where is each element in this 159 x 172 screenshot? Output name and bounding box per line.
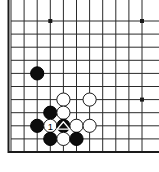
- star-point: [48, 19, 52, 23]
- stone-white[interactable]: [57, 132, 70, 145]
- stone-white[interactable]: [57, 93, 70, 106]
- star-point: [140, 98, 144, 102]
- stone-disc: [44, 132, 57, 145]
- stone-white[interactable]: [83, 93, 96, 106]
- stone-disc: [31, 119, 44, 132]
- stone-disc: [57, 106, 70, 119]
- stone-disc: [70, 132, 83, 145]
- stone-disc: [83, 119, 96, 132]
- stone-white[interactable]: 1: [44, 119, 57, 132]
- stone-black[interactable]: [31, 67, 44, 80]
- stone-disc: [57, 132, 70, 145]
- stone-disc: [83, 93, 96, 106]
- star-point: [140, 19, 144, 23]
- goban-svg[interactable]: 1: [0, 0, 159, 172]
- stone-disc: [70, 119, 83, 132]
- stone-white[interactable]: [83, 119, 96, 132]
- stone-white[interactable]: [57, 106, 70, 119]
- stone-black[interactable]: [70, 132, 83, 145]
- stone-white[interactable]: [70, 119, 83, 132]
- stone-disc: [31, 67, 44, 80]
- stone-black[interactable]: [44, 132, 57, 145]
- stone-disc: [44, 106, 57, 119]
- stone-black[interactable]: [57, 119, 70, 132]
- stone-disc: [57, 93, 70, 106]
- board-edges: [8, 0, 159, 153]
- stone-disc: [44, 119, 57, 132]
- stone-black[interactable]: [44, 106, 57, 119]
- go-board-diagram: 1: [0, 0, 159, 172]
- stone-black[interactable]: [31, 119, 44, 132]
